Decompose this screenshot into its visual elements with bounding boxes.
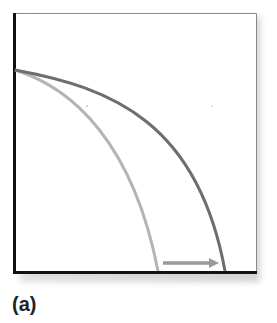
ppf-diagram (13, 13, 257, 274)
panel-label: (a) (12, 293, 36, 316)
shifted-curve (15, 70, 225, 271)
cropped-text-fragment (0, 0, 277, 5)
faint-dot (86, 105, 88, 107)
plot-area (13, 13, 257, 274)
original-curve (15, 70, 158, 271)
faint-dot (211, 105, 213, 107)
shift-arrow-head-icon (209, 258, 219, 268)
